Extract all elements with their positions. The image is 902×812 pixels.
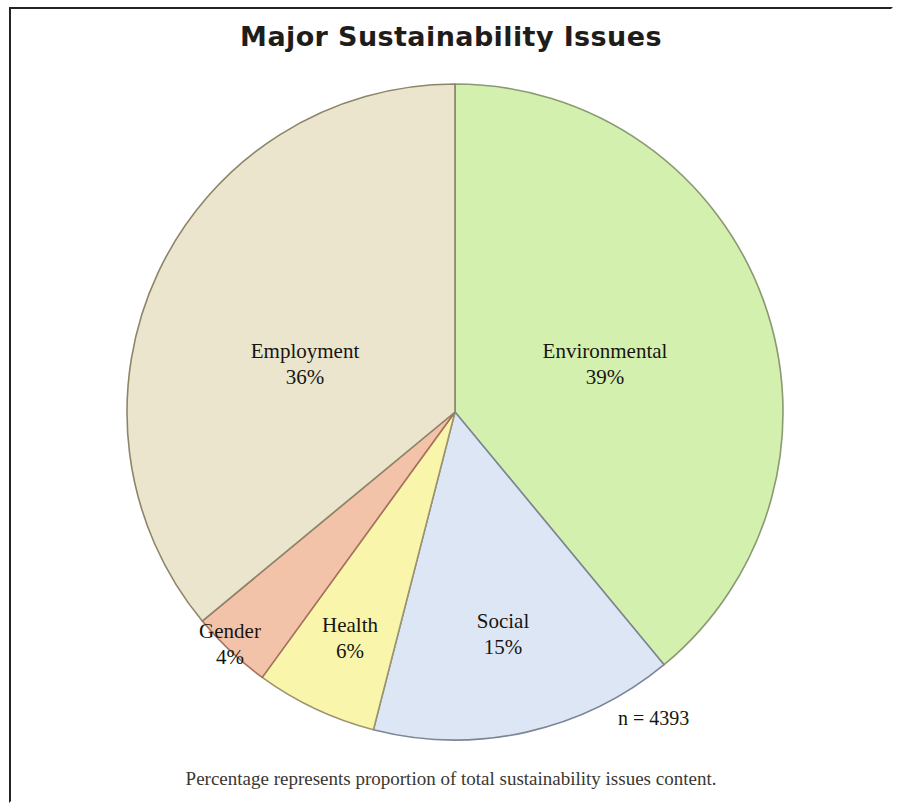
pie-label-health-percent: 6% bbox=[290, 638, 410, 664]
pie-chart-svg bbox=[0, 0, 902, 812]
chart-footnote: Percentage represents proportion of tota… bbox=[0, 768, 902, 790]
pie-label-health: Health 6% bbox=[290, 612, 410, 665]
pie-label-health-name: Health bbox=[290, 612, 410, 638]
pie-label-social: Social 15% bbox=[428, 608, 578, 661]
pie-label-social-name: Social bbox=[428, 608, 578, 634]
pie-label-social-percent: 15% bbox=[428, 634, 578, 660]
pie-label-environmental: Environmental 39% bbox=[500, 338, 710, 391]
pie-label-employment: Employment 36% bbox=[200, 338, 410, 391]
pie-label-employment-percent: 36% bbox=[200, 364, 410, 390]
pie-label-employment-name: Employment bbox=[200, 338, 410, 364]
pie-chart: Environmental 39% Social 15% Health 6% G… bbox=[0, 0, 902, 812]
pie-label-gender-percent: 4% bbox=[170, 644, 290, 670]
sample-size-annotation: n = 4393 bbox=[618, 707, 689, 730]
pie-label-gender: Gender 4% bbox=[170, 618, 290, 671]
pie-label-gender-name: Gender bbox=[170, 618, 290, 644]
pie-label-environmental-name: Environmental bbox=[500, 338, 710, 364]
pie-label-environmental-percent: 39% bbox=[500, 364, 710, 390]
chart-figure: Major Sustainability Issues Environmenta… bbox=[0, 0, 902, 812]
